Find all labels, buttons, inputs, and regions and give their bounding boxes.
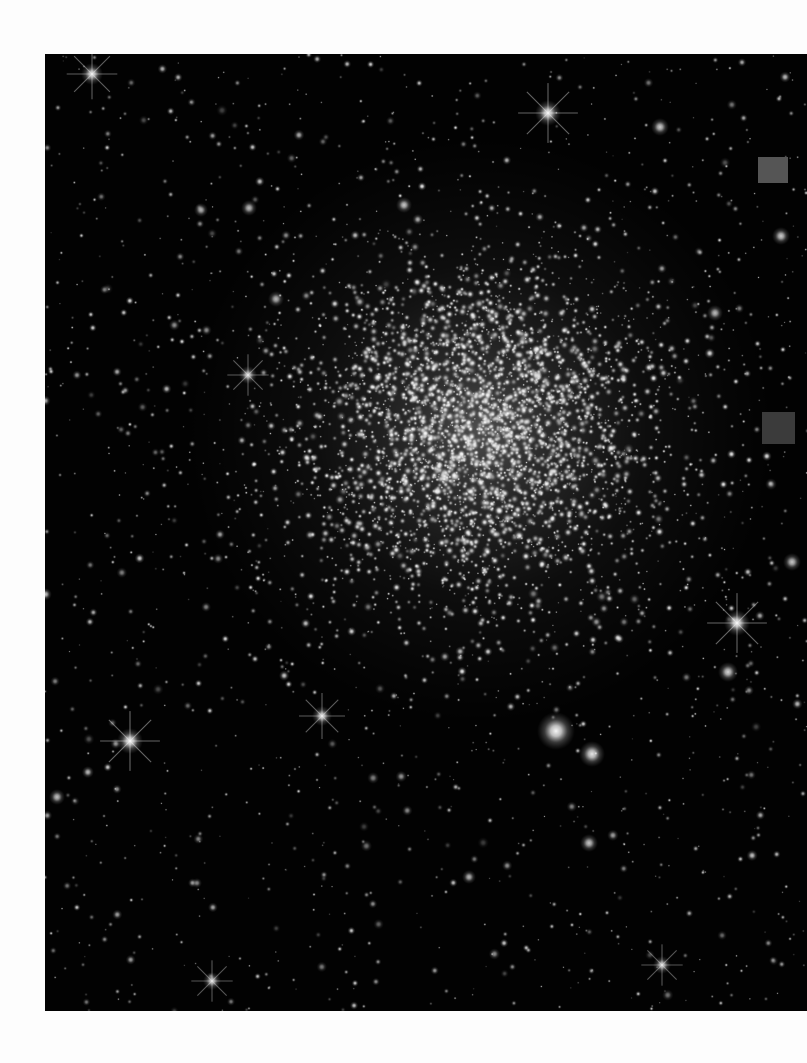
astronomy-image-plate: [45, 54, 807, 1011]
star-field-canvas: [45, 54, 807, 1011]
screenshot-canvas: [0, 0, 807, 1063]
lower-gray-marker: [762, 412, 795, 444]
upper-gray-marker: [758, 157, 788, 183]
